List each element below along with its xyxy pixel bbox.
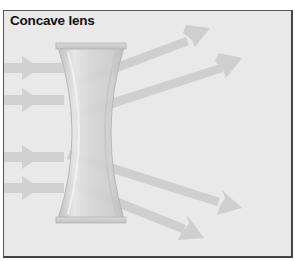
incoming-ray-3 [4,145,64,169]
diagram-title: Concave lens [10,13,95,28]
incoming-ray-4 [4,176,64,200]
incoming-ray-2 [4,88,64,112]
incoming-ray-1 [4,56,64,80]
concave-lens [56,43,126,223]
incoming-rays [4,56,64,200]
lens-diagram [0,0,295,261]
